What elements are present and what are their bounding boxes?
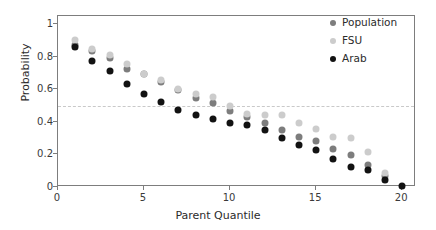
data-point	[313, 138, 320, 145]
data-point	[175, 86, 182, 93]
data-point	[313, 147, 320, 154]
legend-item-label: Arab	[342, 53, 367, 64]
data-point	[295, 119, 302, 126]
data-point	[347, 152, 354, 159]
x-tick-mark	[315, 186, 316, 190]
data-point	[123, 61, 130, 68]
chart-figure: Probability 00.20.40.60.81 05101520 Pare…	[0, 0, 436, 230]
data-point	[261, 119, 268, 126]
data-point	[106, 68, 113, 75]
reference-line-0.5	[58, 106, 414, 107]
legend-item: FSU	[330, 34, 397, 47]
x-tick-label: 0	[54, 192, 60, 203]
data-point	[382, 170, 389, 177]
data-point	[227, 102, 234, 109]
x-tick-label: 5	[140, 192, 146, 203]
circle-marker-icon	[330, 20, 336, 26]
data-point	[89, 57, 96, 64]
data-point	[278, 127, 285, 134]
x-tick-mark	[143, 186, 144, 190]
data-point	[141, 70, 148, 77]
data-point	[123, 80, 130, 87]
circle-marker-icon	[330, 38, 336, 44]
data-point	[330, 145, 337, 152]
x-tick-label: 15	[309, 192, 322, 203]
x-tick-mark	[229, 186, 230, 190]
y-tick-label: 1	[13, 18, 53, 29]
data-point	[209, 100, 216, 107]
data-point	[209, 116, 216, 123]
data-point	[106, 52, 113, 59]
data-point	[89, 46, 96, 53]
data-point	[295, 133, 302, 140]
y-tick-label: 0.6	[13, 83, 53, 94]
x-axis-title: Parent Quantile	[0, 209, 436, 222]
x-tick-label: 10	[223, 192, 236, 203]
data-point	[278, 112, 285, 119]
data-point	[330, 133, 337, 140]
data-point	[313, 126, 320, 133]
data-point	[158, 77, 165, 84]
legend-item-label: FSU	[342, 35, 362, 46]
legend-item: Arab	[330, 52, 397, 65]
data-point	[382, 177, 389, 184]
data-point	[399, 183, 406, 190]
chart-legend: PopulationFSUArab	[330, 16, 397, 65]
legend-item-label: Population	[342, 17, 397, 28]
data-point	[158, 98, 165, 105]
data-point	[192, 91, 199, 98]
data-point	[244, 122, 251, 129]
data-point	[364, 148, 371, 155]
data-point	[227, 120, 234, 127]
circle-marker-icon	[330, 56, 336, 62]
x-tick-label: 20	[395, 192, 408, 203]
legend-item: Population	[330, 16, 397, 29]
data-point	[141, 91, 148, 98]
data-point	[192, 112, 199, 119]
data-point	[347, 163, 354, 170]
x-tick-mark	[57, 186, 58, 190]
data-point	[72, 43, 79, 50]
y-tick-label: 0	[13, 181, 53, 192]
data-point	[364, 166, 371, 173]
data-point	[209, 93, 216, 100]
data-point	[295, 141, 302, 148]
data-point	[244, 110, 251, 117]
data-point	[175, 106, 182, 113]
y-tick-label: 0.4	[13, 115, 53, 126]
data-point	[261, 127, 268, 134]
data-point	[278, 135, 285, 142]
data-point	[347, 135, 354, 142]
y-tick-label: 0.2	[13, 148, 53, 159]
data-point	[261, 111, 268, 118]
data-point	[330, 155, 337, 162]
y-tick-label: 0.8	[13, 50, 53, 61]
